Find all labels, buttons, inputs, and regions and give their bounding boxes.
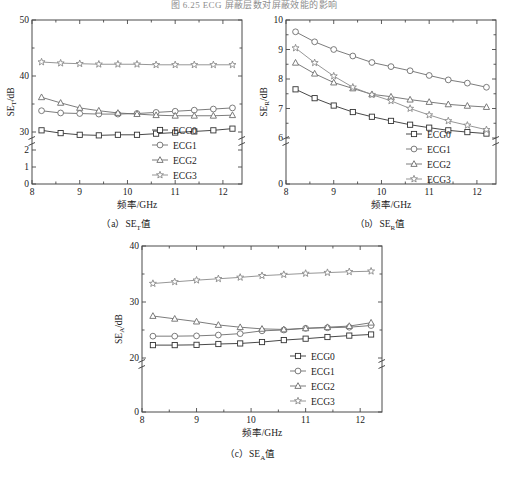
star-marker [229, 61, 236, 68]
axis-tick-label: 10 [123, 187, 133, 197]
star-marker [258, 272, 265, 279]
axis-tick-label: 10 [246, 415, 256, 425]
square-marker [407, 122, 412, 127]
triangle-marker [150, 313, 156, 319]
legend-label-ECG1[interactable]: ECG1 [427, 145, 451, 155]
triangle-marker [191, 112, 197, 118]
star-marker [38, 58, 45, 65]
axis-tick-label: 8 [278, 74, 283, 84]
star-marker [346, 268, 353, 275]
x-axis-title: 频率/GHz [242, 427, 283, 438]
circle-marker [484, 84, 490, 90]
star-marker [215, 275, 222, 282]
subcaption-suffix: 值 [395, 219, 405, 229]
subcaption-symbol: SE [125, 219, 136, 229]
star-marker [330, 72, 337, 79]
circle-marker [464, 80, 470, 86]
triangle-marker [295, 383, 301, 389]
chart-panel-a: 89101112304050012SET/dB频率/GHzECG0ECG1ECG… [4, 12, 248, 216]
circle-marker [230, 105, 236, 111]
star-marker [76, 60, 83, 67]
legend-label-ECG0[interactable]: ECG0 [427, 130, 451, 140]
triangle-marker [157, 157, 163, 163]
legend-label-ECG0[interactable]: ECG0 [311, 352, 335, 362]
axis-tick-label: 11 [301, 415, 310, 425]
axis-tick-label: 50 [20, 15, 30, 25]
axis-tick-label: 9 [77, 187, 82, 197]
circle-marker [350, 53, 356, 59]
axis-tick-label: 40 [20, 71, 30, 81]
y-axis-title: SER/dB [259, 87, 271, 117]
axis-tick-label: 9 [278, 45, 283, 55]
circle-marker [407, 68, 413, 74]
x-axis-title: 频率/GHz [117, 199, 158, 210]
square-marker [238, 341, 243, 346]
circle-marker [295, 368, 301, 374]
axis-tick-label: 11 [171, 187, 180, 197]
triangle-marker [312, 70, 318, 76]
square-marker [368, 332, 373, 337]
circle-marker [194, 333, 200, 339]
circle-marker [445, 77, 451, 83]
series-line-ECG3 [296, 48, 487, 130]
star-marker [153, 61, 160, 68]
star-marker [410, 175, 417, 182]
series-line-ECG1 [296, 32, 487, 87]
square-marker [465, 130, 470, 135]
square-marker [39, 128, 44, 133]
chart-frame [32, 20, 242, 184]
circle-marker [312, 39, 318, 45]
axis-tick-label: 9 [331, 187, 336, 197]
legend-label-ECG3[interactable]: ECG3 [311, 397, 335, 407]
axis-tick-label: 8 [140, 415, 145, 425]
square-marker [369, 114, 374, 119]
legend-label-ECG2[interactable]: ECG2 [311, 382, 335, 392]
circle-marker [39, 108, 45, 114]
subcaption-suffix: 值 [265, 449, 275, 459]
chart-panel-b: 891011126789100SER/dB频率/GHzECG0ECG1ECG2E… [256, 12, 504, 216]
legend-label-ECG2[interactable]: ECG2 [427, 160, 451, 170]
axis-tick-label: 30 [130, 297, 140, 307]
subcaption-prefix: （a） [101, 219, 125, 229]
triangle-marker [331, 79, 337, 85]
legend-label-ECG3[interactable]: ECG3 [427, 175, 451, 185]
legend-label-ECG1[interactable]: ECG1 [311, 367, 335, 377]
axis-tick-label: 10 [274, 15, 284, 25]
circle-marker [172, 333, 178, 339]
square-marker [293, 87, 298, 92]
subcaption-a: （a）SET值 [4, 216, 248, 232]
star-marker [172, 61, 179, 68]
square-marker [388, 118, 393, 123]
square-marker [216, 341, 221, 346]
axis-tick-label: 10 [377, 187, 387, 197]
circle-marker [58, 110, 64, 116]
legend-label-ECG0[interactable]: ECG0 [173, 126, 197, 136]
axis-tick-label: 12 [355, 415, 365, 425]
square-marker [172, 343, 177, 348]
square-marker [96, 133, 101, 138]
star-marker [210, 61, 217, 68]
star-marker [302, 270, 309, 277]
star-marker [95, 61, 102, 68]
square-marker [331, 103, 336, 108]
circle-marker [157, 142, 163, 148]
circle-marker [215, 332, 221, 338]
legend-label-ECG2[interactable]: ECG2 [173, 156, 197, 166]
square-marker [295, 353, 300, 358]
legend-label-ECG1[interactable]: ECG1 [173, 141, 197, 151]
subcaption-prefix: （c） [225, 449, 249, 459]
square-marker [325, 334, 330, 339]
axis-tick-label: 40 [130, 241, 140, 251]
square-marker [312, 96, 317, 101]
circle-marker [369, 60, 375, 66]
star-marker [193, 276, 200, 283]
axis-tick-label: 8 [30, 187, 35, 197]
axis-tick-label: 12 [218, 187, 228, 197]
square-marker [134, 132, 139, 137]
y-axis-title: SET/dB [6, 87, 18, 116]
subcaption-b: （b）SER值 [256, 216, 504, 232]
subcaption-c: （c）SEA值 [110, 446, 390, 462]
star-marker [426, 111, 433, 118]
axis-tick-label: 1 [24, 162, 29, 172]
legend-label-ECG3[interactable]: ECG3 [173, 171, 197, 181]
